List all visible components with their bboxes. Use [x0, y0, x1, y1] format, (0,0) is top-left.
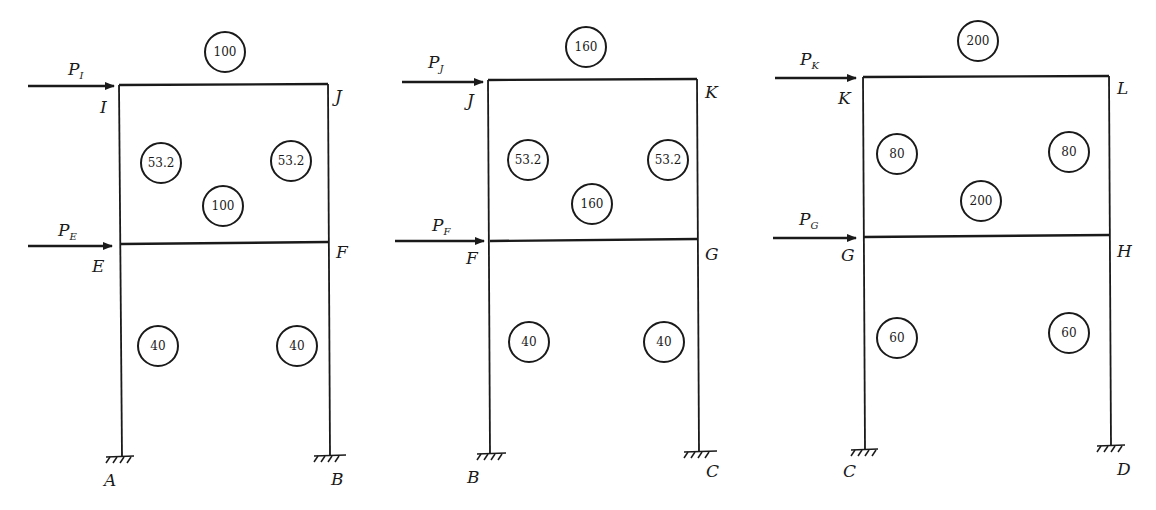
svg-text:40: 40	[521, 335, 536, 349]
node-label-top-left-frame-3: K	[837, 88, 852, 108]
stiffness-circle-lower-left-column-frame-1: 40	[138, 326, 178, 366]
stiffness-circle-middle-beam-frame-2: 160	[572, 184, 612, 224]
node-label-top-right-frame-3: L	[1116, 78, 1128, 98]
svg-text:53.2: 53.2	[655, 153, 682, 167]
load-label-top-frame-3: PK	[799, 49, 819, 71]
stiffness-circle-middle-beam-frame-3: 200	[961, 181, 1001, 221]
stiffness-circle-upper-left-column-frame-3: 80	[877, 134, 917, 174]
fixed-support-left-frame-3	[851, 449, 878, 456]
frame-2: PJ PF J K F G B C 160 53.2 53.2 160 40	[395, 27, 719, 487]
stiffness-circle-upper-left-column-frame-1: 53.2	[141, 143, 181, 183]
stiffness-circle-lower-right-column-frame-3: 60	[1049, 313, 1089, 353]
frames-diagram: PI PE I J E F A B 100 53.2 53.2 100 40	[0, 0, 1156, 510]
svg-text:200: 200	[970, 194, 993, 208]
svg-text:100: 100	[212, 199, 235, 213]
node-label-top-left-frame-1: I	[99, 97, 107, 117]
svg-text:200: 200	[967, 34, 990, 48]
column-right-frame-2	[697, 79, 699, 451]
column-left-frame-3	[863, 77, 865, 450]
svg-text:160: 160	[581, 197, 604, 211]
beam-middle-frame-1	[121, 242, 328, 244]
load-label-top-frame-1: PI	[67, 59, 84, 81]
beam-middle-frame-3	[864, 235, 1109, 237]
node-label-top-right-frame-1: J	[332, 86, 343, 106]
stiffness-circle-upper-left-column-frame-2: 53.2	[508, 140, 548, 180]
svg-text:60: 60	[889, 331, 904, 345]
support-label-left-frame-2: B	[466, 467, 480, 487]
load-label-middle-frame-3: PG	[798, 209, 818, 231]
beam-top-frame-2	[488, 79, 697, 80]
fixed-support-left-frame-1	[106, 456, 134, 463]
node-label-top-left-frame-2: J	[464, 90, 475, 110]
svg-text:40: 40	[150, 339, 165, 353]
stiffness-circle-upper-right-column-frame-3: 80	[1049, 132, 1089, 172]
support-label-right-frame-2: C	[706, 461, 719, 481]
stiffness-circle-upper-right-column-frame-2: 53.2	[648, 140, 688, 180]
stiffness-circle-lower-left-column-frame-3: 60	[877, 318, 917, 358]
stiffness-circle-lower-left-column-frame-2: 40	[509, 322, 549, 362]
fixed-support-right-frame-2	[684, 451, 717, 458]
stiffness-circle-upper-right-column-frame-1: 53.2	[271, 141, 311, 181]
fixed-support-left-frame-2	[477, 453, 506, 460]
fixed-support-right-frame-1	[314, 455, 346, 462]
svg-text:40: 40	[656, 335, 671, 349]
node-label-middle-right-frame-1: F	[335, 242, 349, 262]
svg-text:53.2: 53.2	[148, 156, 175, 170]
node-label-middle-right-frame-3: H	[1116, 241, 1133, 261]
stiffness-circle-middle-beam-frame-1: 100	[203, 186, 243, 226]
support-label-left-frame-1: A	[102, 470, 116, 490]
stiffness-circle-top-beam-frame-1: 100	[205, 32, 245, 72]
load-label-middle-frame-2: PF	[431, 215, 451, 237]
svg-text:53.2: 53.2	[278, 154, 305, 168]
svg-text:80: 80	[1061, 145, 1076, 159]
node-label-middle-left-frame-1: E	[91, 256, 105, 276]
support-label-right-frame-3: D	[1116, 459, 1131, 479]
frame-3: PK PG K L G H C D 200 80 80 200 60 60	[773, 21, 1133, 481]
beam-top-frame-3	[863, 76, 1109, 77]
svg-text:100: 100	[214, 45, 237, 59]
svg-text:80: 80	[889, 147, 904, 161]
svg-text:160: 160	[575, 40, 598, 54]
stiffness-circle-top-beam-frame-3: 200	[958, 21, 998, 61]
load-label-top-frame-2: PJ	[427, 52, 444, 74]
node-label-top-right-frame-2: K	[704, 82, 719, 102]
support-label-right-frame-1: B	[330, 469, 344, 489]
fixed-support-right-frame-3	[1097, 445, 1125, 452]
column-left-frame-1	[119, 85, 122, 457]
svg-text:53.2: 53.2	[515, 153, 542, 167]
node-label-middle-right-frame-2: G	[705, 244, 719, 264]
stiffness-circle-lower-right-column-frame-2: 40	[644, 322, 684, 362]
svg-text:60: 60	[1061, 326, 1076, 340]
node-label-middle-left-frame-2: F	[465, 248, 479, 268]
column-right-frame-1	[328, 84, 330, 455]
frame-1: PI PE I J E F A B 100 53.2 53.2 100 40	[28, 32, 349, 490]
node-label-middle-left-frame-3: G	[841, 245, 855, 265]
beam-top-frame-1	[119, 84, 328, 85]
support-label-left-frame-3: C	[843, 461, 856, 481]
beam-middle-frame-2	[490, 239, 697, 241]
stiffness-circle-lower-right-column-frame-1: 40	[277, 326, 317, 366]
column-right-frame-3	[1109, 76, 1111, 446]
svg-text:40: 40	[289, 339, 304, 353]
column-left-frame-2	[488, 80, 490, 454]
load-label-middle-frame-1: PE	[57, 220, 77, 242]
stiffness-circle-top-beam-frame-2: 160	[566, 27, 606, 67]
